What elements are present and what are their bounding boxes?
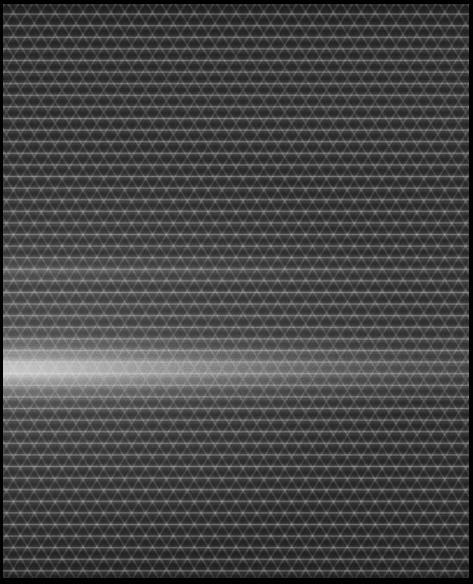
frame-edge-right: [469, 0, 473, 584]
specimen-image: [3, 4, 469, 578]
frame-edge-bottom: [0, 578, 473, 584]
scan-viewport: [0, 0, 473, 584]
sensor-scanlines: [3, 4, 469, 578]
